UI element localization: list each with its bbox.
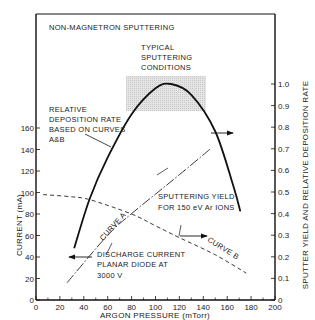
y-right-tick-label: 0.3: [278, 231, 290, 240]
chart-title: NON-MAGNETRON SPUTTERING: [49, 23, 175, 32]
typical-conditions-label: TYPICAL SPUTTERING CONDITIONS: [141, 43, 195, 72]
x-axis-title: ARGON PRESSURE (mTorr): [100, 311, 210, 320]
y-left-tick-label: 80: [25, 210, 34, 219]
x-tick-label: 20: [55, 303, 64, 312]
x-tick-label: 160: [221, 303, 235, 312]
curve-a-label: CURVE A: [98, 210, 128, 242]
x-axis-ticks: 020406080100120140160180200: [34, 296, 282, 312]
y-left-tick-label: 40: [25, 253, 34, 262]
y-right-axis-ticks: 00.10.20.30.40.50.60.70.80.91.0: [271, 80, 290, 305]
y-left-tick-label: 0: [30, 296, 35, 305]
y-left-tick-label: 60: [25, 232, 34, 241]
y-left-tick-label: 120: [21, 167, 35, 176]
discharge-current-label: DISCHARGE CURRENT PLANAR DIODE AT 3000 V: [97, 250, 188, 280]
y-left-tick-label: 20: [25, 275, 34, 284]
y-right-tick-label: 0: [278, 296, 283, 305]
y-right-tick-label: 0.1: [278, 274, 290, 283]
curve-b-leader-line: [179, 225, 181, 236]
deposition-rate-label: RELATIVE DEPOSITION RATE BASED ON CURVES…: [49, 105, 128, 144]
y-right-tick-label: 1.0: [278, 80, 290, 89]
y-right-tick-label: 0.5: [278, 188, 290, 197]
yield-leader-line: [157, 168, 168, 175]
y-right-axis-title: SPUTTER YIELD AND RELATIVE DEPOSITION RA…: [301, 81, 310, 290]
sputtering-yield-label: SPUTTERING YIELD FOR 150 eV Ar IONS: [158, 192, 237, 212]
y-right-tick-label: 0.9: [278, 102, 290, 111]
y-right-tick-label: 0.7: [278, 145, 290, 154]
y-right-tick-label: 0.2: [278, 253, 290, 262]
chart: 020406080100120140160180200 020406080100…: [0, 0, 315, 320]
y-left-axis-title: CURRENT (mA): [15, 194, 24, 256]
curve-b-label: CURVE B: [206, 235, 241, 261]
y-left-tick-label: 140: [21, 146, 35, 155]
x-tick-label: 180: [244, 303, 258, 312]
x-tick-label: 0: [34, 303, 39, 312]
y-right-tick-label: 0.8: [278, 123, 290, 132]
x-tick-label: 40: [79, 303, 88, 312]
y-right-tick-label: 0.6: [278, 166, 290, 175]
y-right-tick-label: 0.4: [278, 210, 290, 219]
y-left-tick-label: 160: [21, 124, 35, 133]
deposition-leader-line: [85, 134, 111, 147]
